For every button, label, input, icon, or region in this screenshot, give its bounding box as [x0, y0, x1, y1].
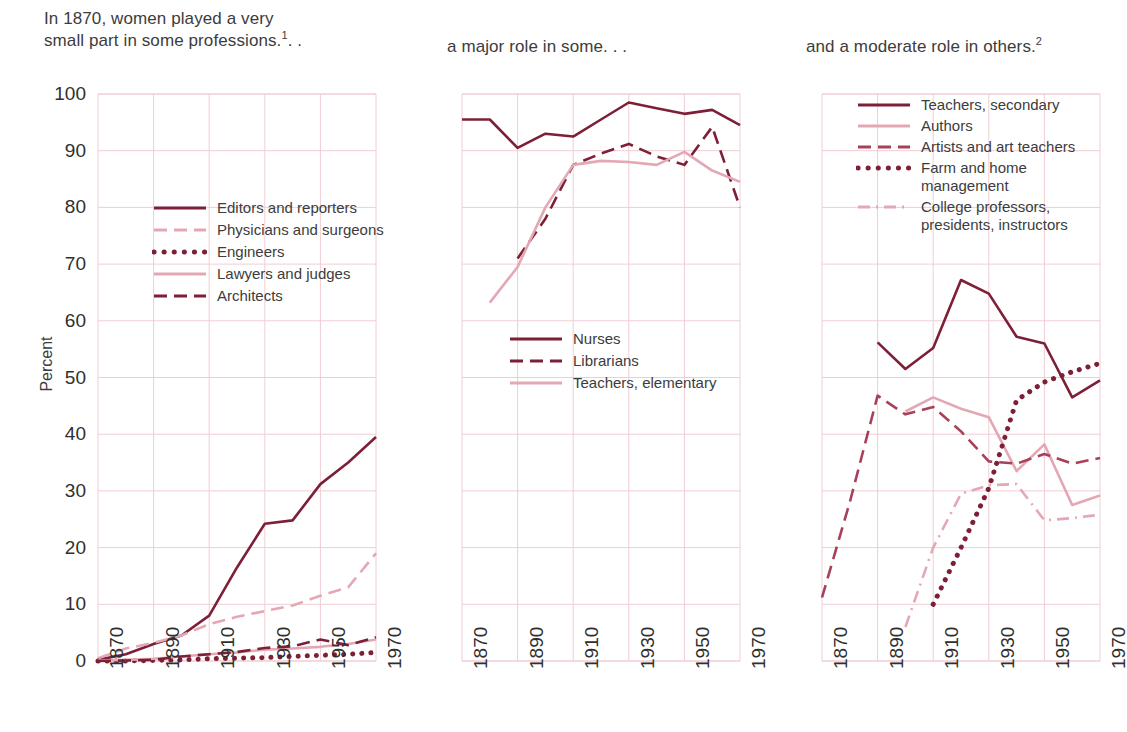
legend-item-architects[interactable]: Architects [152, 287, 384, 305]
legend-item-teachers-secondary[interactable]: Teachers, secondary [856, 96, 1075, 114]
y-tick-80: 80 [40, 197, 86, 216]
legend-label: Farm and home management [921, 159, 1027, 195]
legend-swatch-icon [152, 221, 208, 239]
x-tick-panel1-1910: 1910 [218, 627, 237, 669]
x-tick-panel3-1930: 1930 [998, 627, 1017, 669]
legend-item-lawyers-and-judges[interactable]: Lawyers and judges [152, 265, 384, 283]
legend-label: Teachers, elementary [573, 374, 716, 392]
legend-label: Nurses [573, 330, 621, 348]
x-tick-panel2-1950: 1950 [693, 627, 712, 669]
legend-swatch-icon [508, 352, 564, 370]
y-tick-90: 90 [40, 141, 86, 160]
x-tick-panel3-1910: 1910 [942, 627, 961, 669]
legend-item-artists-and-art-teachers[interactable]: Artists and art teachers [856, 138, 1075, 156]
legend-item-physicians-and-surgeons[interactable]: Physicians and surgeons [152, 221, 384, 239]
y-tick-40: 40 [40, 424, 86, 443]
legend-swatch-icon [508, 330, 564, 348]
x-tick-panel2-1870: 1870 [471, 627, 490, 669]
legend-item-nurses[interactable]: Nurses [508, 330, 716, 348]
figure-root: In 1870, women played a very small part … [0, 0, 1127, 732]
legend-panel-3: Teachers, secondaryAuthorsArtists and ar… [856, 96, 1075, 237]
y-tick-100: 100 [40, 84, 86, 103]
legend-swatch-icon [152, 243, 208, 261]
plot-area-panel-1 [98, 94, 376, 661]
legend-swatch-icon [856, 198, 912, 216]
x-tick-panel2-1970: 1970 [749, 627, 768, 669]
x-tick-panel3-1890: 1890 [887, 627, 906, 669]
y-tick-30: 30 [40, 481, 86, 500]
legend-swatch-icon [152, 199, 208, 217]
legend-swatch-icon [856, 138, 912, 156]
panel-title-2-text: a major role in some. . . [447, 37, 627, 56]
x-tick-panel2-1910: 1910 [582, 627, 601, 669]
legend-label: Authors [921, 117, 973, 135]
x-tick-panel3-1950: 1950 [1053, 627, 1072, 669]
legend-label: Teachers, secondary [921, 96, 1059, 114]
panel-title-2: a major role in some. . . [447, 36, 757, 58]
y-tick-60: 60 [40, 311, 86, 330]
x-tick-panel2-1890: 1890 [527, 627, 546, 669]
series-line [822, 396, 1100, 598]
y-tick-70: 70 [40, 254, 86, 273]
panel-title-1-suffix: . . [288, 31, 302, 50]
x-tick-panel2-1930: 1930 [638, 627, 657, 669]
legend-label: Editors and reporters [217, 199, 357, 217]
legend-label: Lawyers and judges [217, 265, 350, 283]
x-tick-panel1-1930: 1930 [274, 627, 293, 669]
panel-title-3-text: and a moderate role in others. [806, 37, 1036, 56]
legend-label: Architects [217, 287, 283, 305]
legend-label: Librarians [573, 352, 639, 370]
legend-label: Engineers [217, 243, 285, 261]
x-tick-panel1-1870: 1870 [107, 627, 126, 669]
series-line [905, 397, 1100, 505]
legend-label: College professors, presidents, instruct… [921, 198, 1068, 234]
x-tick-panel3-1970: 1970 [1109, 627, 1127, 669]
legend-swatch-icon [508, 374, 564, 392]
panel-title-3-footnote: 2 [1036, 35, 1042, 47]
legend-item-librarians[interactable]: Librarians [508, 352, 716, 370]
y-tick-20: 20 [40, 538, 86, 557]
panel-title-1: In 1870, women played a very small part … [44, 8, 374, 52]
panel-title-1-text: In 1870, women played a very small part … [44, 9, 281, 50]
y-tick-0: 0 [40, 651, 86, 670]
y-tick-10: 10 [40, 594, 86, 613]
legend-item-farm-and-home-management[interactable]: Farm and home management [856, 159, 1075, 195]
x-tick-panel1-1970: 1970 [385, 627, 404, 669]
legend-panel-1: Editors and reportersPhysicians and surg… [152, 199, 384, 309]
legend-item-teachers-elementary[interactable]: Teachers, elementary [508, 374, 716, 392]
legend-swatch-icon [856, 159, 912, 177]
legend-swatch-icon [856, 117, 912, 135]
legend-item-editors-and-reporters[interactable]: Editors and reporters [152, 199, 384, 217]
legend-label: Artists and art teachers [921, 138, 1075, 156]
legend-panel-2: NursesLibrariansTeachers, elementary [508, 330, 716, 396]
legend-swatch-icon [152, 265, 208, 283]
legend-item-authors[interactable]: Authors [856, 117, 1075, 135]
x-tick-panel1-1950: 1950 [329, 627, 348, 669]
legend-swatch-icon [856, 96, 912, 114]
x-tick-panel3-1870: 1870 [831, 627, 850, 669]
series-line [462, 103, 740, 148]
x-tick-panel1-1890: 1890 [163, 627, 182, 669]
legend-swatch-icon [152, 287, 208, 305]
legend-item-engineers[interactable]: Engineers [152, 243, 384, 261]
legend-label: Physicians and surgeons [217, 221, 384, 239]
legend-item-college-professors-presidents-instructors[interactable]: College professors, presidents, instruct… [856, 198, 1075, 234]
series-line [490, 152, 740, 303]
y-tick-50: 50 [40, 368, 86, 387]
chart-svg-panel-1 [98, 94, 376, 661]
panel-title-3: and a moderate role in others.2 [806, 36, 1126, 58]
